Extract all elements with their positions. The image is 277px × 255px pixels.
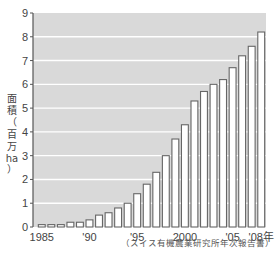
y-label-char: 万 [7,141,17,152]
y-axis-label: 面積（百万ha） [6,93,18,175]
y-tick-label: 1 [22,197,28,209]
y-tick-label: 2 [22,173,28,185]
bar-1987 [57,225,64,227]
bar-2006 [239,56,246,227]
bar-1995 [134,194,141,227]
y-label-char: ha [6,153,18,164]
bar-1988 [67,222,74,227]
y-label-char: 積 [7,104,17,116]
y-tick-labels: 0123456789 [22,7,33,233]
y-tick-label: 5 [22,102,28,114]
y-label-char: （ [7,117,17,128]
y-label-char: 面 [7,93,17,104]
bar-2005 [229,68,236,227]
bar-1991 [96,215,103,227]
bar-1993 [115,208,122,227]
bar-2007 [248,46,255,227]
y-tick-label: 3 [22,150,28,162]
bar-1994 [124,203,131,227]
bar-1992 [105,213,112,227]
bar-2001 [191,101,198,227]
x-tick-label: '90 [82,231,96,243]
bar-2008 [258,32,265,227]
bar-1989 [77,222,84,227]
bar-1990 [86,220,93,227]
bar-2004 [220,80,227,227]
bar-2000 [181,125,188,227]
y-tick-label: 4 [22,126,28,138]
bar-2003 [210,84,217,227]
bar-1985 [38,225,45,227]
y-label-char: ） [7,164,17,175]
bar-1997 [153,172,160,227]
source-note: （スイス有機農業研究所年次報告書） [121,238,274,248]
y-tick-label: 7 [22,55,28,67]
bar-1986 [48,225,55,227]
area-bar-chart: 0123456789 1985'90'952000'05'08年 面積（百万ha… [0,0,277,255]
bar-1998 [162,156,169,227]
y-tick-label: 9 [22,7,28,19]
bar-1999 [172,139,179,227]
bar-1996 [143,184,150,227]
x-tick-label: 1985 [30,231,54,243]
y-tick-label: 0 [22,221,28,233]
y-tick-label: 6 [22,78,28,90]
y-tick-label: 8 [22,31,28,43]
y-label-char: 百 [7,129,17,140]
bar-2002 [201,91,208,227]
